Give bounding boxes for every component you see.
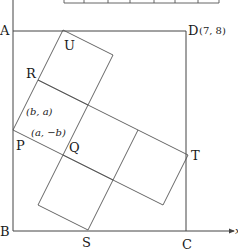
label-d: D [188,23,198,38]
label-t: T [191,148,200,163]
geometry-diagram: x A D (7, 8) B C U R P Q T S (b, a) (a, … [0,0,238,252]
label-s: S [82,235,91,250]
label-p: P [16,138,25,153]
x-axis [13,229,235,234]
label-q: Q [69,140,80,155]
x-axis-label: x [235,225,238,236]
label-r: R [26,66,37,81]
label-b: B [0,224,10,239]
vector-label-pq: (a, −b) [31,127,66,138]
label-u: U [64,38,75,53]
vector-label-pr: (b, a) [26,106,53,117]
label-d-coordinate: (7, 8) [199,25,226,36]
cropped-table [64,0,219,3]
label-c: C [182,237,192,252]
label-a: A [0,23,10,38]
